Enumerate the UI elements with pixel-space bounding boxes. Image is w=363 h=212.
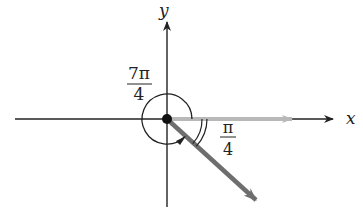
- origin-point: [162, 114, 172, 124]
- seven-pi-over-four-label: 7π 4: [127, 63, 152, 104]
- label-numerator: π: [223, 118, 234, 137]
- angle-diagram: x y 7π 4 π 4: [0, 0, 363, 212]
- y-axis-label: y: [158, 0, 169, 20]
- terminal-side-ray: [167, 119, 256, 200]
- label-denominator: 4: [134, 84, 145, 104]
- label-numerator: 7π: [128, 63, 150, 83]
- arc-arrowhead-icon: [176, 136, 186, 145]
- pi-over-four-label: π 4: [220, 118, 236, 159]
- x-axis-label: x: [346, 108, 356, 128]
- label-denominator: 4: [223, 140, 233, 159]
